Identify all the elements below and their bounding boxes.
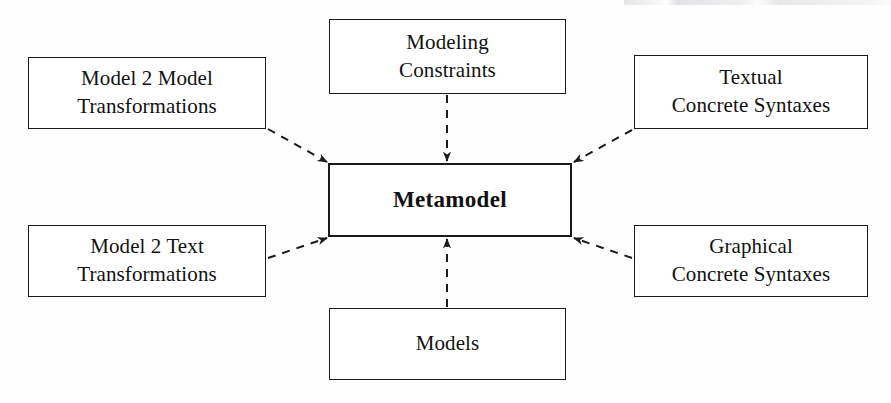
node-label-model2model: Model 2 Model Transformations [71, 65, 223, 120]
node-models: Models [329, 308, 566, 380]
node-model2text: Model 2 Text Transformations [28, 225, 266, 297]
edge-e-model2model [268, 129, 327, 162]
node-label-metamodel: Metamodel [387, 185, 513, 215]
edge-e-graphical-concrete-syntaxes [574, 238, 632, 258]
node-label-textual-concrete-syntaxes: Textual Concrete Syntaxes [666, 64, 837, 119]
edge-e-model2text [268, 238, 327, 258]
node-modeling-constraints: Modeling Constraints [329, 19, 566, 94]
node-graphical-concrete-syntaxes: Graphical Concrete Syntaxes [634, 225, 868, 297]
node-model2model: Model 2 Model Transformations [28, 57, 266, 129]
node-label-graphical-concrete-syntaxes: Graphical Concrete Syntaxes [666, 233, 837, 288]
node-label-models: Models [410, 330, 486, 358]
node-metamodel: Metamodel [328, 163, 572, 237]
node-label-model2text: Model 2 Text Transformations [71, 233, 223, 288]
node-label-modeling-constraints: Modeling Constraints [393, 29, 502, 84]
node-textual-concrete-syntaxes: Textual Concrete Syntaxes [634, 55, 868, 129]
diagram-canvas: Model 2 Model TransformationsModeling Co… [0, 0, 891, 403]
scan-artifact [624, 0, 891, 5]
edge-e-textual-concrete-syntaxes [574, 130, 632, 162]
